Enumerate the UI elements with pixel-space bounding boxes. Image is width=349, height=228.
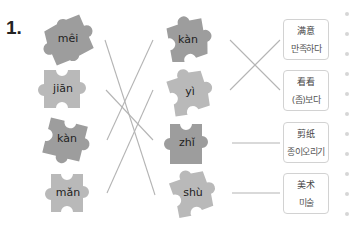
right-piece-4[interactable]: shù — [162, 168, 224, 220]
margin-dot — [345, 12, 349, 16]
line-jian-zhi — [106, 90, 153, 140]
pinyin-label: kàn — [36, 132, 98, 145]
meaning-card-1[interactable]: 满意 만족하다 — [283, 19, 329, 60]
meaning-card-4[interactable]: 美术 미술 — [283, 173, 329, 214]
right-piece-2[interactable]: yì — [159, 67, 221, 119]
margin-dot — [345, 72, 349, 76]
margin-dot — [345, 52, 349, 56]
chinese-word: 剪纸 — [284, 128, 328, 140]
margin-dot — [345, 132, 349, 136]
korean-meaning: 만족하다 — [284, 43, 328, 55]
line-kan-kan — [107, 40, 153, 140]
pinyin-label: mǎn — [37, 186, 99, 199]
left-piece-3[interactable]: kàn — [36, 114, 98, 166]
pinyin-label: shù — [162, 186, 224, 199]
left-piece-1[interactable]: mêi — [37, 14, 99, 66]
pinyin-label: zhǐ — [156, 136, 218, 149]
chinese-word: 美术 — [284, 179, 328, 191]
pinyin-label: kàn — [157, 33, 219, 46]
left-piece-4[interactable]: mǎn — [37, 168, 99, 220]
meaning-card-3[interactable]: 剪纸 종이오리기 — [283, 122, 329, 163]
meaning-card-2[interactable]: 看看 (좀)보다 — [283, 70, 329, 111]
margin-dot — [345, 152, 349, 156]
margin-dot — [345, 172, 349, 176]
line-mei-shu — [105, 40, 155, 195]
left-piece-2[interactable]: jiān — [32, 64, 94, 116]
margin-dot — [345, 92, 349, 96]
chinese-word: 看看 — [284, 76, 328, 88]
margin-dot — [345, 212, 349, 216]
right-piece-1[interactable]: kàn — [157, 15, 219, 67]
korean-meaning: (좀)보다 — [284, 94, 328, 106]
margin-dot — [345, 192, 349, 196]
chinese-word: 满意 — [284, 25, 328, 37]
line-yi-man — [107, 90, 153, 193]
pinyin-label: mêi — [37, 32, 99, 45]
right-piece-3[interactable]: zhǐ — [156, 118, 218, 170]
margin-dot — [345, 112, 349, 116]
korean-meaning: 미술 — [284, 197, 328, 209]
pinyin-label: jiān — [32, 82, 94, 95]
korean-meaning: 종이오리기 — [284, 146, 328, 158]
pinyin-label: yì — [159, 85, 221, 98]
margin-dot — [345, 32, 349, 36]
